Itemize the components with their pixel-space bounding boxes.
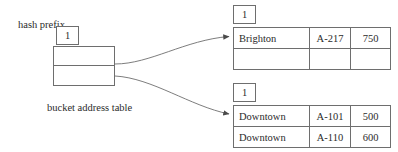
bucket-1-prefix-box: 1: [233, 5, 256, 24]
extendable-hashing-diagram: hash prefix 1 bucket address table 1 Bri…: [0, 0, 398, 152]
bucket-2-row-1-branch: Downtown: [234, 127, 310, 148]
bucket-1-row-0-account: A-217: [310, 28, 351, 49]
bucket-2-table: Downtown A-101 500 Downtown A-110 600: [233, 105, 391, 148]
table-row: Downtown A-110 600: [234, 127, 391, 148]
bucket-1-row-1-account: [310, 49, 351, 70]
bucket-2-row-1-balance: 600: [351, 127, 391, 148]
bucket-1-row-1-balance: [351, 49, 391, 70]
bucket-1-row-0-balance: 750: [351, 28, 391, 49]
table-row: [234, 49, 391, 70]
pointer-to-bucket-1-arrow: [115, 37, 229, 65]
bucket-address-table: [53, 46, 115, 86]
bucket-1-table: Brighton A-217 750: [233, 27, 391, 70]
bucket-2-row-0-branch: Downtown: [234, 106, 310, 127]
bucket-1-row-0-branch: Brighton: [234, 28, 310, 49]
bucket-address-table-label: bucket address table: [47, 102, 132, 114]
bucket-2-row-0-account: A-101: [310, 106, 351, 127]
bucket-2-row-1-account: A-110: [310, 127, 351, 148]
bucket-2-row-0-balance: 500: [351, 106, 391, 127]
table-row: Brighton A-217 750: [234, 28, 391, 49]
bucket-2-prefix-box: 1: [233, 83, 256, 102]
bucket-1-row-1-branch: [234, 49, 310, 70]
bucket-address-table-row-1: [54, 47, 114, 66]
bucket-address-table-prefix-box: 1: [56, 26, 79, 45]
bucket-address-table-row-2: [54, 66, 114, 85]
table-row: Downtown A-101 500: [234, 106, 391, 127]
